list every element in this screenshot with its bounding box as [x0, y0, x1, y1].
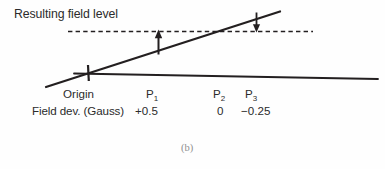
- baseline-axis: [74, 74, 378, 80]
- figure-caption: (b): [181, 143, 193, 154]
- origin-label: Origin: [63, 88, 94, 100]
- figure-b-container: Resulting field level Origin P1 P2 P3 Fi…: [0, 0, 385, 169]
- down-arrow-p3: [253, 13, 260, 33]
- field-deviation-value-p1: +0.5: [135, 105, 158, 117]
- p2-name: P: [213, 87, 221, 100]
- field-deviation-value-p3: −0.25: [241, 105, 270, 117]
- p1-subscript: 1: [154, 94, 158, 103]
- p3-subscript: 3: [253, 94, 257, 103]
- field-deviation-value-p2: 0: [217, 105, 223, 117]
- field-deviation-row-label: Field dev. (Gauss): [32, 105, 124, 117]
- axis-point-label-p1: P1: [146, 88, 158, 100]
- axis-point-label-p3: P3: [245, 88, 257, 100]
- p2-subscript: 2: [221, 94, 225, 103]
- origin-tick-mark: [88, 65, 89, 81]
- resulting-field-level-label: Resulting field level: [14, 8, 118, 20]
- p1-name: P: [146, 87, 154, 100]
- p3-name: P: [245, 87, 253, 100]
- axis-point-label-p2: P2: [213, 88, 225, 100]
